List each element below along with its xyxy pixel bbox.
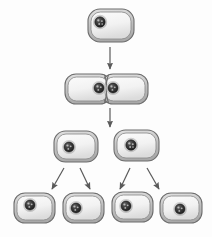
cell-division-figure: Cell division sequence diagram A biologi…: [0, 0, 212, 237]
nucleus-icon: [25, 200, 35, 210]
nucleus-icon: [121, 201, 131, 211]
granddaughter-cell-4: [160, 193, 202, 223]
granddaughter-cell-1: [14, 193, 55, 223]
nucleus-icon: [126, 140, 136, 150]
daughter-cell-2: [114, 130, 159, 161]
generation-2-group: [65, 74, 148, 104]
granddaughter-cell-3: [112, 192, 153, 222]
nucleus-icon: [94, 83, 104, 93]
nucleus-icon: [175, 204, 185, 214]
dividing-cell: [65, 74, 148, 104]
granddaughter-cell-2: [63, 193, 104, 223]
nucleus-icon: [64, 142, 74, 152]
nucleus-icon: [95, 17, 105, 27]
generation-1-group: [88, 9, 134, 42]
daughter-cell-1: [54, 131, 98, 162]
parent-cell: [88, 9, 134, 42]
nucleus-icon: [108, 83, 118, 93]
nucleus-icon: [71, 203, 81, 213]
cell-division-canvas: [0, 0, 212, 237]
